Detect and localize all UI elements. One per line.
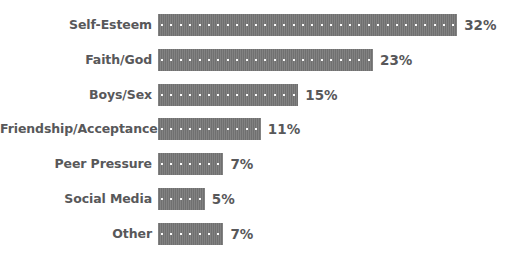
bar xyxy=(158,223,223,245)
bar-dot-pattern xyxy=(158,153,223,175)
category-label: Friendship/Acceptance xyxy=(0,118,152,140)
value-label: 15% xyxy=(305,84,337,106)
bar-fill xyxy=(158,14,457,36)
bar-row: Boys/Sex15% xyxy=(0,84,521,106)
category-label: Peer Pressure xyxy=(0,153,152,175)
bar-fill xyxy=(158,188,205,210)
bar-row: Other7% xyxy=(0,223,521,245)
plot-area: Self-Esteem32%Faith/God23%Boys/Sex15%Fri… xyxy=(0,0,521,258)
bar-dot-pattern xyxy=(158,84,298,106)
value-label: 5% xyxy=(212,188,235,210)
bar xyxy=(158,153,223,175)
bar-chart: Self-Esteem32%Faith/God23%Boys/Sex15%Fri… xyxy=(0,0,521,258)
bar-fill xyxy=(158,118,261,140)
category-label: Self-Esteem xyxy=(0,14,152,36)
category-label: Boys/Sex xyxy=(0,84,152,106)
bar xyxy=(158,14,457,36)
category-label: Other xyxy=(0,223,152,245)
value-label: 32% xyxy=(464,14,496,36)
value-label: 23% xyxy=(380,49,412,71)
bar-dot-pattern xyxy=(158,14,457,36)
bar xyxy=(158,84,298,106)
bar-fill xyxy=(158,223,223,245)
value-label: 11% xyxy=(268,118,300,140)
bar-row: Faith/God23% xyxy=(0,49,521,71)
value-label: 7% xyxy=(230,153,253,175)
category-label: Social Media xyxy=(0,188,152,210)
bar-row: Social Media5% xyxy=(0,188,521,210)
bar xyxy=(158,118,261,140)
bar-dot-pattern xyxy=(158,118,261,140)
bar-dot-pattern xyxy=(158,223,223,245)
bar xyxy=(158,49,373,71)
value-label: 7% xyxy=(230,223,253,245)
bar-dot-pattern xyxy=(158,49,373,71)
bar-row: Peer Pressure7% xyxy=(0,153,521,175)
bar xyxy=(158,188,205,210)
bar-row: Self-Esteem32% xyxy=(0,14,521,36)
bar-fill xyxy=(158,153,223,175)
bar-fill xyxy=(158,84,298,106)
bar-dot-pattern xyxy=(158,188,205,210)
bar-row: Friendship/Acceptance11% xyxy=(0,118,521,140)
category-label: Faith/God xyxy=(0,49,152,71)
bar-fill xyxy=(158,49,373,71)
